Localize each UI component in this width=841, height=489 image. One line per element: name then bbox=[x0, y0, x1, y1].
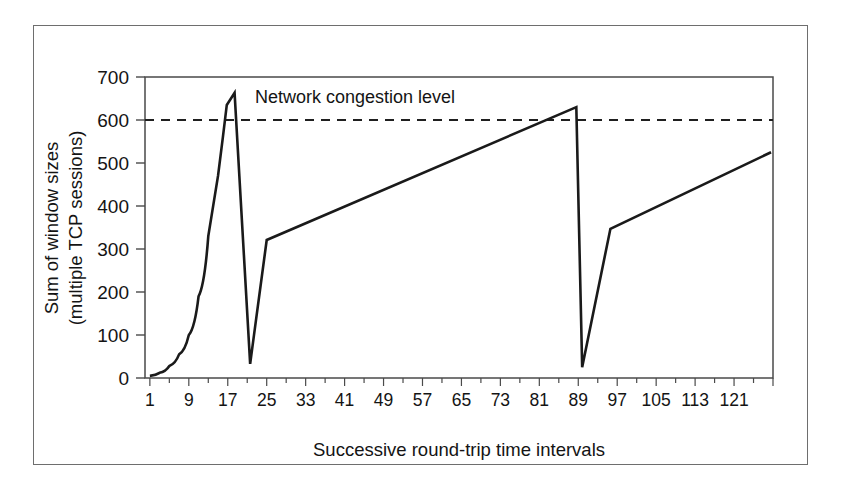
x-tick-label: 121 bbox=[719, 390, 748, 410]
x-tick-label: 33 bbox=[296, 390, 315, 410]
y-tick-label: 700 bbox=[97, 67, 129, 88]
y-tick-label: 200 bbox=[97, 282, 129, 303]
x-tick-label: 25 bbox=[257, 390, 276, 410]
x-tick-label: 105 bbox=[642, 390, 671, 410]
y-tick-label: 100 bbox=[97, 325, 129, 346]
x-tick-label: 9 bbox=[184, 390, 194, 410]
x-tick-label: 57 bbox=[413, 390, 432, 410]
x-tick-label: 65 bbox=[452, 390, 471, 410]
x-tick-label: 17 bbox=[218, 390, 237, 410]
y-axis: 0100200300400500600700 bbox=[97, 67, 145, 389]
y-tick-label: 600 bbox=[97, 110, 129, 131]
y-tick-label: 400 bbox=[97, 196, 129, 217]
x-tick-label: 97 bbox=[607, 390, 626, 410]
figure-root: 0100200300400500600700 19172533414957657… bbox=[0, 0, 841, 489]
y-axis-title-line-2: (multiple TCP sessions) bbox=[65, 131, 86, 326]
x-tick-label: 113 bbox=[681, 390, 709, 410]
y-tick-label: 300 bbox=[97, 239, 129, 260]
y-tick-label: 0 bbox=[118, 368, 129, 389]
x-tick-label: 41 bbox=[335, 390, 354, 410]
x-axis: 191725334149576573818997105113121 bbox=[145, 378, 773, 410]
tcp-congestion-chart: 0100200300400500600700 19172533414957657… bbox=[0, 0, 841, 489]
window-size-series-line bbox=[150, 93, 771, 376]
x-axis-title: Successive round-trip time intervals bbox=[313, 439, 605, 460]
x-tick-label: 73 bbox=[491, 390, 510, 410]
network-congestion-level-label: Network congestion level bbox=[255, 87, 455, 107]
x-tick-label: 89 bbox=[569, 390, 588, 410]
plot-area-frame bbox=[145, 77, 773, 378]
y-axis-title-line-1: Sum of window sizes bbox=[41, 142, 62, 315]
x-tick-label: 81 bbox=[530, 390, 549, 410]
y-tick-label: 500 bbox=[97, 153, 129, 174]
x-tick-label: 49 bbox=[374, 390, 393, 410]
x-tick-label: 1 bbox=[145, 390, 155, 410]
